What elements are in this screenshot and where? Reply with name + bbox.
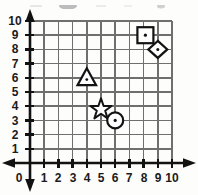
triangle-marker [78, 68, 97, 85]
y-tick-label-10: 10 [4, 15, 26, 27]
circle-marker [107, 112, 123, 128]
y-tick-label-1: 1 [4, 143, 26, 155]
x-tick-label-2: 2 [51, 172, 65, 184]
y-tick-label-3: 3 [4, 115, 26, 127]
x-tick-label-1: 1 [37, 172, 51, 184]
y-tick-label-9: 9 [4, 29, 26, 41]
x-tick-label-3: 3 [66, 172, 80, 184]
plot-canvas [0, 0, 198, 195]
x-tick-label-5: 5 [94, 172, 108, 184]
origin-label-0: 0 [12, 172, 26, 184]
y-tick-label-6: 6 [4, 72, 26, 84]
y-tick-label-4: 4 [4, 100, 26, 112]
y-tick-label-5: 5 [4, 86, 26, 98]
coordinate-grid-figure: 10 9 8 7 6 5 4 3 2 1 0 1 2 3 4 5 6 7 8 9… [0, 0, 198, 195]
x-tick-label-6: 6 [108, 172, 122, 184]
square-marker [137, 27, 153, 43]
x-tick-label-8: 8 [137, 172, 151, 184]
y-axis-line [25, 9, 35, 192]
y-tick-label-8: 8 [4, 43, 26, 55]
x-tick-label-4: 4 [80, 172, 94, 184]
y-tick-label-7: 7 [4, 58, 26, 70]
x-tick-label-7: 7 [122, 172, 136, 184]
y-tick-label-2: 2 [4, 129, 26, 141]
x-tick-label-10: 10 [161, 172, 183, 184]
